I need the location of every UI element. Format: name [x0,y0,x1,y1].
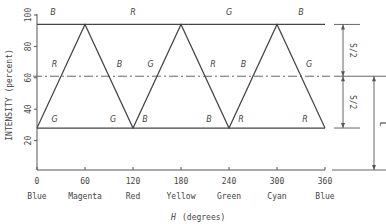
dim-label-s2-lower: S/2 [348,95,357,110]
curve-label: R [302,115,308,124]
curve-label: B [117,60,123,69]
x-tick-label: 240 [222,177,237,186]
curve-label: B [298,8,304,17]
y-tick-label: 100 [24,8,33,23]
y-tick-label: 80 [24,41,33,51]
arrowhead [372,165,376,170]
curve-label: G [147,60,153,69]
hue-name-label: Yellow [167,192,196,201]
hue-name-label: Green [217,192,241,201]
curve-label: R [210,60,216,69]
dimension-annotations: S/2S/2L [332,24,386,170]
curve-label: R [52,60,58,69]
x-axis-symbol: H [170,213,176,222]
curve-label: B [206,115,212,124]
x-axis-unit: (degrees) [182,213,225,222]
arrowhead [341,71,345,76]
dim-label-L: L [378,122,386,127]
curve-label: B [50,8,56,17]
y-axis-title: INTENSITY (percent) [5,49,14,141]
hue-name-label: Cyan [267,192,286,201]
axes [37,14,325,170]
curve-label: G [110,115,116,124]
axis-ticks: 204060801000Blue60Magenta120Red180Yellow… [24,8,335,201]
hue-name-label: Blue [315,192,334,201]
curve-label: G [51,115,57,124]
curve-label: G [226,8,232,17]
curve-label: R [238,115,244,124]
arrowhead [372,76,376,81]
curve-label: B [241,60,247,69]
y-tick-label: 20 [24,136,33,146]
x-tick-label: 0 [35,177,40,186]
curve-label: B [142,115,148,124]
x-tick-label: 180 [174,177,189,186]
y-tick-label: 60 [24,73,33,83]
x-tick-label: 120 [126,177,141,186]
arrowhead [341,123,345,128]
hue-name-label: Red [126,192,141,201]
hue-name-label: Blue [27,192,46,201]
hue-name-label: Magenta [68,192,102,201]
rgb-hue-intensity-chart: 204060801000Blue60Magenta120Red180Yellow… [0,0,386,224]
arrowhead [341,76,345,81]
x-axis-title: H (degrees) [170,213,225,222]
curve-label: R [130,8,136,17]
x-tick-label: 300 [270,177,285,186]
dim-label-s2-upper: S/2 [348,43,357,58]
y-tick-label: 40 [24,104,33,114]
arrowhead [341,24,345,29]
x-tick-label: 360 [318,177,333,186]
curve-label: G [306,60,312,69]
x-tick-label: 60 [80,177,90,186]
